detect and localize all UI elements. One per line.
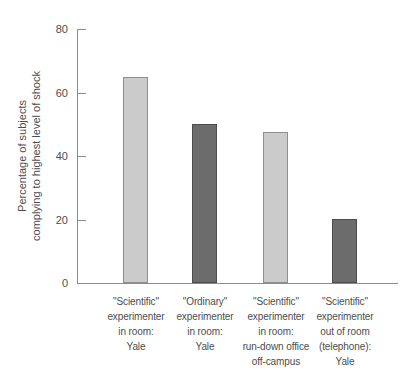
bar-3: [263, 132, 288, 283]
bar-2: [192, 124, 217, 283]
y-tick-20: [78, 220, 86, 221]
bar-1: [123, 77, 148, 283]
bar-category-label-line: (telephone):: [293, 339, 397, 354]
plot-area: 806040200"Scientific"experimenterin room…: [77, 29, 398, 284]
y-axis-title-line-2: complying to highest level of shock: [29, 71, 43, 241]
bar-category-label-line: experimenter: [293, 309, 397, 324]
y-axis-title-line-1: Percentage of subjects: [15, 71, 29, 241]
y-tick-80: [78, 29, 86, 30]
bar-4: [332, 219, 357, 283]
y-tick-label-60: 60: [42, 87, 68, 100]
y-tick-label-20: 20: [42, 214, 68, 227]
y-tick-60: [78, 93, 86, 94]
y-tick-label-80: 80: [42, 23, 68, 36]
bar-category-label-4: "Scientific"experimenterout of room(tele…: [293, 294, 397, 369]
bar-category-label-line: out of room: [293, 324, 397, 339]
bar-category-label-line: "Scientific": [293, 294, 397, 309]
y-axis-title-text: Percentage of subjects complying to high…: [15, 71, 43, 241]
bar-chart-figure: Percentage of subjects complying to high…: [0, 0, 413, 373]
y-tick-label-40: 40: [42, 150, 68, 163]
y-tick-40: [78, 156, 86, 157]
y-tick-label-0: 0: [42, 277, 68, 290]
bar-category-label-line: Yale: [293, 354, 397, 369]
